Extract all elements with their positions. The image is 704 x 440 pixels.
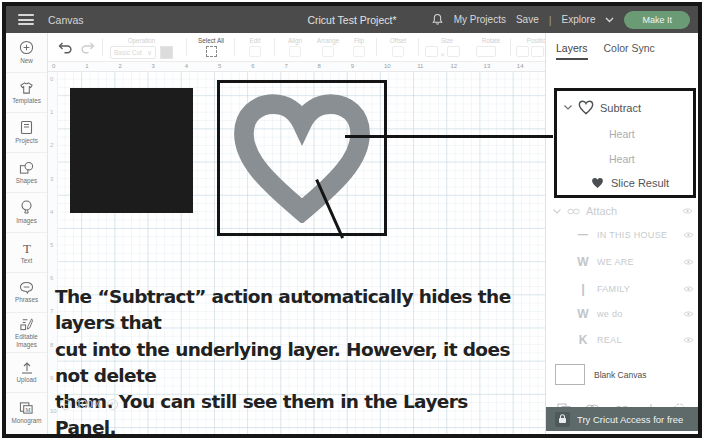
shapes-icon (19, 161, 34, 175)
app-window: Canvas Cricut Test Project* My Projects … (2, 2, 702, 438)
flip-group[interactable]: Flip (347, 37, 371, 57)
offset-group[interactable]: Offset (383, 37, 413, 57)
select-all-icon (206, 46, 217, 57)
ruler-top-number: 13 (484, 63, 491, 69)
ruler-top-number: 9 (351, 63, 354, 69)
edit-group[interactable]: Edit (242, 37, 268, 57)
ruler-left-number: 5 (50, 242, 53, 248)
sidebar-item-phrases[interactable]: Phrases (6, 273, 47, 313)
subtract-label: Subtract (600, 102, 641, 114)
ruler-top-number: 12 (450, 63, 457, 69)
ruler-top-number: 2 (118, 63, 121, 69)
sidebar-item-text[interactable]: T Text (6, 233, 47, 273)
chevron-down-icon[interactable] (564, 105, 572, 110)
layer-thumb: W (576, 255, 590, 269)
color-swatch[interactable] (160, 46, 173, 59)
layer-item-we-do[interactable]: W we do (576, 307, 694, 321)
chevron-down-icon[interactable] (553, 209, 561, 214)
ruler-top-number: 0 (52, 63, 55, 69)
position-y-field[interactable] (531, 46, 544, 57)
speech-bubble-icon (19, 281, 34, 294)
heart-shape-layer[interactable] (232, 93, 372, 223)
annotation-line: them. You can still see them in the Laye… (55, 389, 525, 440)
sidebar-item-editable-images[interactable]: Editable Images (6, 313, 47, 353)
make-it-button[interactable]: Make It (624, 11, 690, 29)
header-divider: | (549, 14, 552, 26)
ruler-left-number: 3 (50, 176, 53, 182)
layer-item-real[interactable]: K REAL (576, 333, 694, 347)
subtract-annotation-box: Subtract Heart Heart Slice Result (554, 88, 696, 198)
canvas-view-label[interactable]: Canvas (48, 14, 84, 26)
access-banner-text: Try Cricut Access for free (577, 414, 683, 425)
operation-dropdown[interactable]: Basic Cut∨ (110, 46, 156, 59)
ruler-top-number: 4 (185, 63, 188, 69)
sidebar-item-projects[interactable]: Projects (6, 113, 47, 153)
bell-icon[interactable] (431, 13, 444, 26)
zoom-in-icon[interactable]: + (107, 399, 118, 410)
slice-result-row[interactable]: Slice Result (591, 177, 693, 189)
eye-icon[interactable] (683, 258, 694, 266)
my-projects-link[interactable]: My Projects (454, 14, 506, 25)
arrange-group[interactable]: Arrange (312, 37, 344, 57)
sidebar-item-templates[interactable]: Templates (6, 73, 47, 113)
align-group[interactable]: Align (281, 37, 309, 57)
layer-thumb: W (576, 307, 590, 321)
blank-canvas-swatch (555, 364, 585, 385)
select-all-group[interactable]: Select All (194, 37, 228, 57)
ruler-top-number: 3 (152, 63, 155, 69)
redo-icon[interactable] (80, 41, 95, 54)
explore-menu[interactable]: Explore (562, 14, 596, 25)
pencil-icon (249, 46, 261, 57)
shirt-icon (19, 81, 34, 95)
undo-icon[interactable] (58, 41, 73, 54)
layer-item-we-are[interactable]: W WE ARE (576, 255, 694, 269)
position-x-field[interactable] (516, 46, 529, 57)
black-square-layer[interactable] (70, 88, 193, 213)
design-canvas[interactable]: 01234567891011121314 012345678910 The “S… (48, 62, 545, 434)
heart-filled-icon (591, 177, 604, 189)
left-sidebar: New Templates Projects Shapes Images T T… (6, 33, 48, 434)
rotate-field[interactable] (476, 46, 496, 57)
sidebar-item-new[interactable]: New (6, 33, 47, 73)
ruler-left-number: 1 (50, 109, 53, 115)
notebook-icon (20, 120, 33, 135)
subtract-group-row[interactable]: Subtract (564, 100, 693, 115)
operation-group: Operation Basic Cut∨ (110, 37, 173, 59)
offset-icon (392, 46, 404, 57)
tab-color-sync[interactable]: Color Sync (604, 42, 655, 60)
width-field[interactable] (425, 46, 438, 57)
ruler-left-number: 6 (50, 275, 53, 281)
chevron-down-icon[interactable] (605, 17, 614, 23)
cricut-access-banner[interactable]: Try Cricut Access for free (546, 407, 698, 431)
blank-canvas-row[interactable]: Blank Canvas (555, 364, 646, 385)
layer-item-heart-1[interactable]: Heart (609, 128, 693, 140)
layer-item-family[interactable]: | FAMILY (576, 281, 694, 296)
sidebar-item-upload[interactable]: Upload (6, 353, 47, 393)
sidebar-item-shapes[interactable]: Shapes (6, 153, 47, 193)
eye-icon[interactable] (683, 231, 694, 239)
ruler-left-number: 8 (50, 342, 53, 348)
sidebar-item-monogram[interactable]: M Monogram (6, 393, 47, 433)
eye-icon[interactable] (683, 336, 694, 344)
heart-annotation-box (217, 80, 387, 236)
sidebar-item-images[interactable]: Images (6, 193, 47, 233)
ruler-top-number: 7 (284, 63, 287, 69)
flip-icon (353, 46, 365, 57)
eye-icon[interactable] (682, 207, 693, 215)
zoom-out-icon[interactable]: − (60, 399, 71, 410)
attach-label: Attach (586, 205, 676, 217)
height-field[interactable] (447, 46, 460, 57)
tab-layers[interactable]: Layers (556, 42, 588, 60)
layer-item-heart-2[interactable]: Heart (609, 153, 693, 165)
ruler-left-number: 9 (50, 375, 53, 381)
arrange-icon (322, 46, 334, 57)
hamburger-menu-icon[interactable] (18, 14, 34, 25)
eye-icon[interactable] (683, 285, 694, 293)
save-link[interactable]: Save (516, 14, 539, 25)
eye-icon[interactable] (683, 310, 694, 318)
attach-group-row[interactable]: Attach (553, 205, 693, 217)
ruler-top-number: 11 (417, 63, 423, 69)
top-bar: Canvas Cricut Test Project* My Projects … (6, 6, 698, 33)
layer-thumb: — (576, 229, 590, 240)
layer-item-in-this-house[interactable]: — IN THIS HOUSE (576, 229, 694, 240)
